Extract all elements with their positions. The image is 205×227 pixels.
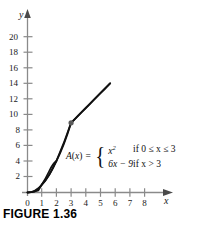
junction-point-marker: [69, 120, 74, 125]
formula-case2-condition: if x > 3: [133, 158, 175, 171]
y-tick-label-12: 12: [2, 95, 18, 104]
y-tick-label-10: 10: [2, 110, 18, 119]
case1-condition-text: if 0 ≤ x ≤ 3: [133, 144, 175, 154]
formula-close-paren: ): [79, 151, 82, 161]
case1-exponent: 2: [112, 144, 115, 151]
y-tick-label-6: 6: [4, 141, 20, 150]
x-tick-label-6: 6: [110, 199, 120, 208]
x-tick-label-4: 4: [81, 199, 91, 208]
formula-left-hand-side: A(x): [66, 151, 82, 161]
figure-container: 2 4 6 8 10 12 14 16 18 20 0 1 2 3 4 5 6 …: [0, 0, 205, 227]
x-tick-label-7: 7: [125, 199, 135, 208]
piecewise-formula: A(x) = { x2 if 0 ≤ x ≤ 3 6x − 9 if x > 3: [66, 141, 175, 171]
formula-case-row-2: 6x − 9 if x > 3: [108, 158, 175, 171]
formula-equals-sign: =: [85, 151, 90, 161]
y-tick-label-14: 14: [2, 79, 18, 88]
parabola-segment: [28, 123, 72, 193]
x-tick-label-5: 5: [96, 199, 106, 208]
function-curve-sampled: [28, 84, 111, 193]
formula-cases: x2 if 0 ≤ x ≤ 3 6x − 9 if x > 3: [108, 141, 175, 171]
y-axis-label: y: [19, 10, 23, 20]
x-tick-label-8: 8: [140, 199, 150, 208]
formula-case2-expression: 6x − 9: [108, 158, 133, 171]
y-tick-label-18: 18: [2, 48, 18, 57]
x-axis: [22, 189, 173, 196]
y-tick-label-2: 2: [4, 172, 20, 181]
y-tick-label-4: 4: [4, 157, 20, 166]
formula-case1-condition: if 0 ≤ x ≤ 3: [133, 141, 175, 158]
y-tick-label-8: 8: [4, 126, 20, 135]
y-tick-label-16: 16: [2, 64, 18, 73]
formula-case1-expression: x2: [108, 141, 133, 158]
x-axis-label: x: [164, 196, 168, 206]
formula-case-row-1: x2 if 0 ≤ x ≤ 3: [108, 141, 175, 158]
plot-canvas: [0, 0, 205, 227]
linear-segment: [71, 83, 110, 123]
y-tick-label-20: 20: [2, 33, 18, 42]
figure-caption: FIGURE 1.36: [3, 207, 77, 221]
